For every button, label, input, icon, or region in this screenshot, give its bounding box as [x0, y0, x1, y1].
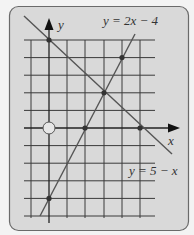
point-0-5: [46, 37, 51, 42]
origin-open-circle: [43, 122, 55, 134]
x-axis-label: x: [167, 133, 174, 148]
point-0-neg4: [46, 196, 51, 201]
y-axis-label: y: [56, 17, 64, 32]
point-4-4: [119, 55, 124, 60]
label-line-2x-4: y = 2x − 4: [101, 13, 159, 28]
label-line-5-x: y = 5 − x: [127, 163, 178, 178]
point-5-0: [137, 125, 142, 130]
graph-figure: y x y = 2x − 4 y = 5 − x: [0, 0, 194, 235]
point-2-0: [82, 125, 87, 130]
point-intersection: [101, 90, 106, 95]
